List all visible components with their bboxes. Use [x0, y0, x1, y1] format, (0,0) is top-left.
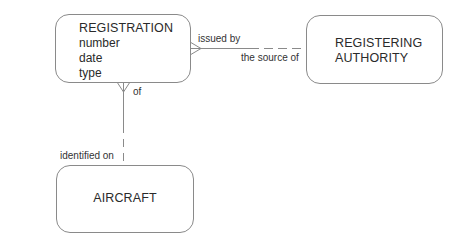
entity-aircraft[interactable]: AIRCRAFT: [56, 165, 194, 233]
entity-title-line-2: AUTHORITY: [335, 51, 442, 66]
entity-registration[interactable]: REGISTRATION number date type: [55, 14, 191, 83]
entity-title-line-1: REGISTERING: [335, 36, 442, 51]
relationship-identified-on: [117, 82, 130, 165]
entity-registering-authority[interactable]: REGISTERING AUTHORITY: [306, 15, 443, 84]
entity-title: REGISTRATION: [79, 21, 190, 36]
label-of: of: [133, 86, 141, 98]
attribute-date: date: [79, 51, 190, 66]
label-identified-on: identified on: [60, 150, 114, 162]
attribute-type: type: [79, 66, 190, 81]
label-the-source-of: the source of: [241, 52, 299, 64]
entity-title: AIRCRAFT: [57, 191, 193, 206]
attribute-number: number: [79, 36, 190, 51]
label-issued-by: issued by: [198, 33, 240, 45]
